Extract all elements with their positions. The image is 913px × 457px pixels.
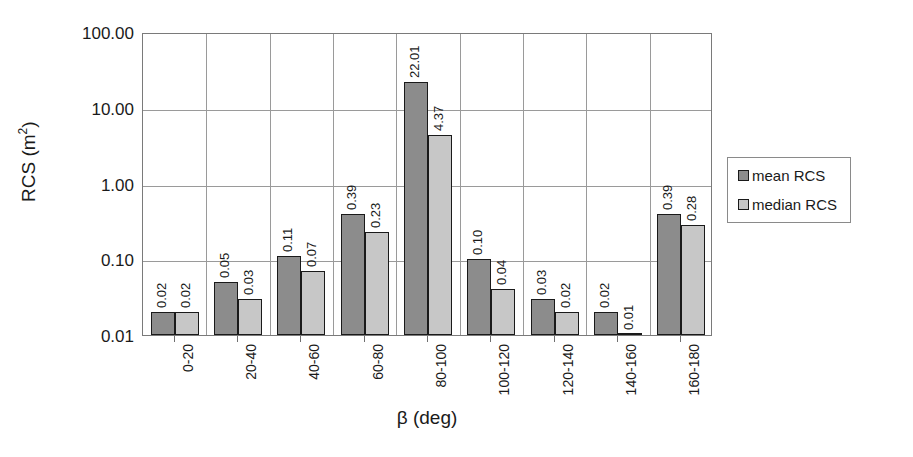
x-axis-tick-label: 60-80 [371, 344, 385, 380]
bar-value-label: 0.02 [179, 283, 192, 308]
y-axis-title: RCS (m2) [16, 82, 39, 242]
bar-group: 0.100.04 [460, 34, 523, 335]
bar-value-label: 0.01 [622, 305, 635, 330]
bar-mean[interactable] [531, 299, 555, 335]
x-axis-tick-label: 20-40 [244, 344, 258, 380]
bar-value-label: 0.05 [218, 253, 231, 278]
bar-value-label: 0.02 [559, 283, 572, 308]
bar-group: 0.020.02 [143, 34, 206, 335]
y-axis-tick-label: 0.01 [44, 328, 134, 345]
bar-value-label: 0.11 [281, 228, 294, 252]
bar-median[interactable] [365, 232, 389, 335]
legend-swatch-icon [738, 170, 749, 181]
x-axis-tick-label: 80-100 [434, 344, 448, 388]
y-axis-title-main: RCS (m [18, 134, 39, 202]
bar-median[interactable] [301, 271, 325, 335]
bar-value-label: 0.03 [242, 270, 255, 295]
y-axis-tick-label: 10.00 [44, 100, 134, 117]
x-axis-tick-mark [490, 336, 491, 342]
legend-label: median RCS [752, 197, 837, 212]
bar-group: 0.020.01 [586, 34, 649, 335]
bar-group: 0.050.03 [206, 34, 269, 335]
bar-mean[interactable] [341, 214, 365, 335]
bar-mean[interactable] [277, 256, 301, 335]
x-axis-tick-mark [237, 336, 238, 342]
x-axis-title: β (deg) [142, 407, 712, 429]
bar-value-label: 0.03 [535, 270, 548, 295]
bar-median[interactable] [681, 225, 705, 335]
bar-median[interactable] [491, 289, 515, 335]
bar-value-label: 0.28 [685, 196, 698, 221]
y-axis-tick-labels: 100.0010.001.000.100.01 [42, 0, 134, 457]
y-axis-title-tail: ) [18, 121, 39, 127]
x-axis-tick-mark [300, 336, 301, 342]
bar-value-label: 0.02 [155, 283, 168, 308]
x-axis-tick-label: 160-180 [687, 344, 701, 395]
bar-value-label: 0.07 [305, 242, 318, 267]
legend-label: mean RCS [752, 168, 825, 183]
x-axis-tick-label: 140-160 [624, 344, 638, 395]
bar-median[interactable] [555, 312, 579, 335]
x-axis-tick-mark [680, 336, 681, 342]
y-axis-tick-label: 0.10 [44, 252, 134, 269]
plot-area: 0.020.020.050.030.110.070.390.2322.014.3… [142, 33, 712, 336]
x-axis-tick-mark [427, 336, 428, 342]
bar-mean[interactable] [214, 282, 238, 335]
x-axis-tick-label: 100-120 [497, 344, 511, 395]
bar-median[interactable] [428, 135, 452, 335]
bar-mean[interactable] [151, 312, 175, 335]
bar-group: 22.014.37 [396, 34, 459, 335]
bar-median[interactable] [175, 312, 199, 335]
bar-value-label: 0.23 [369, 203, 382, 228]
rcs-bar-chart: RCS (m2) 100.0010.001.000.100.01 0.020.0… [0, 0, 913, 457]
bar-value-label: 22.01 [408, 45, 421, 78]
bar-value-label: 0.39 [661, 185, 674, 210]
bar-mean[interactable] [467, 259, 491, 335]
x-axis-tick-mark [554, 336, 555, 342]
chart-legend: mean RCSmedian RCS [727, 157, 851, 223]
x-axis-tick-label: 0-20 [181, 344, 195, 372]
bar-mean[interactable] [657, 214, 681, 335]
y-axis-tick-label: 1.00 [44, 176, 134, 193]
x-axis-tick-mark [174, 336, 175, 342]
bar-value-label: 0.39 [345, 185, 358, 210]
bar-value-label: 0.10 [471, 230, 484, 255]
bar-group: 0.110.07 [270, 34, 333, 335]
bar-value-label: 0.04 [495, 260, 508, 285]
y-axis-tick-label: 100.00 [44, 25, 134, 42]
bar-value-label: 0.02 [598, 283, 611, 308]
x-axis-tick-label: 120-140 [561, 344, 575, 395]
bar-value-label: 4.37 [432, 106, 445, 131]
x-axis-tick-mark [617, 336, 618, 342]
x-axis-tick-label: 40-60 [307, 344, 321, 380]
bar-mean[interactable] [594, 312, 618, 335]
bar-group: 0.390.23 [333, 34, 396, 335]
bar-mean[interactable] [404, 82, 428, 335]
bar-group: 0.030.02 [523, 34, 586, 335]
legend-item-mean-rcs[interactable]: mean RCS [738, 168, 842, 183]
bar-group: 0.390.28 [650, 34, 713, 335]
legend-swatch-icon [738, 199, 749, 210]
y-axis-title-exponent: 2 [16, 128, 30, 135]
bar-median[interactable] [238, 299, 262, 335]
bar-median[interactable] [618, 333, 642, 335]
x-axis-tick-mark [364, 336, 365, 342]
legend-item-median-rcs[interactable]: median RCS [738, 197, 842, 212]
